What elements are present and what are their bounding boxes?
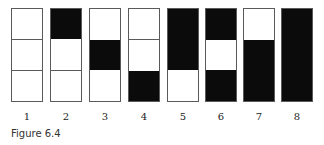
bit-column-5	[167, 8, 199, 102]
cell-empty	[51, 39, 81, 69]
column-label: 5	[167, 111, 199, 122]
cell-empty	[244, 9, 274, 40]
cell-empty	[90, 9, 120, 40]
bit-column-1	[11, 8, 43, 102]
column-label: 6	[205, 111, 237, 122]
cell-filled	[168, 9, 198, 40]
bit-column-4	[128, 8, 160, 102]
cell-filled	[244, 40, 274, 71]
cell-filled	[282, 40, 312, 71]
cell-filled	[51, 9, 81, 39]
cell-filled	[206, 70, 236, 101]
cell-empty	[12, 9, 42, 39]
bit-column-3	[89, 8, 121, 102]
column-label: 2	[50, 111, 82, 122]
cell-filled	[282, 70, 312, 101]
column-label: 1	[11, 111, 43, 122]
bit-column-2	[50, 8, 82, 102]
cell-empty	[129, 39, 159, 70]
cell-filled	[168, 40, 198, 71]
cell-empty	[168, 70, 198, 101]
bit-column-8	[281, 8, 313, 102]
cell-filled	[206, 9, 236, 40]
cell-filled	[129, 71, 159, 101]
cell-filled	[282, 9, 312, 40]
column-label: 7	[243, 111, 275, 122]
column-label: 4	[128, 111, 160, 122]
cell-filled	[90, 40, 120, 71]
cell-empty	[51, 70, 81, 101]
cell-empty	[206, 40, 236, 71]
cell-empty	[129, 9, 159, 39]
figure-caption: Figure 6.4	[11, 128, 61, 139]
cell-empty	[12, 70, 42, 101]
column-label: 8	[281, 111, 313, 122]
bit-column-6	[205, 8, 237, 102]
cell-empty	[90, 70, 120, 101]
cell-empty	[12, 39, 42, 70]
column-label: 3	[89, 111, 121, 122]
bit-column-7	[243, 8, 275, 102]
cell-filled	[244, 70, 274, 101]
